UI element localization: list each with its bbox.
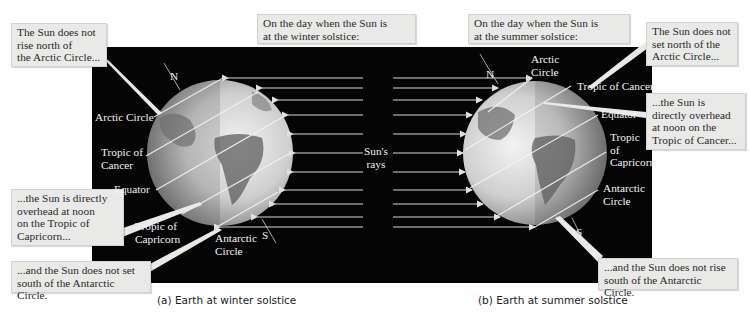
suns-rays-label: Sun's rays [360,145,392,170]
caption-summer-solstice: (b) Earth at summer solstice [478,294,628,306]
summer-tropic-cancer-label: Tropic of Cancer [577,80,654,93]
winter-arctic-circle-label: Arctic Circle [95,111,154,124]
caption-winter-solstice: (a) Earth at winter solstice [157,294,296,306]
summer-south-label: S [576,226,582,239]
summer-solstice-header-callout: On the day when the Sun is at the summer… [468,14,630,44]
winter-tropic-capricorn-label: Tropic of Capricorn [135,220,180,245]
summer-tropic-capricorn-label: Tropic of Capricorn [610,131,655,169]
summer-antarctic-circle-label: Antarctic Circle [603,182,645,207]
summer-cancer-callout: ...the Sun is directly overhead at noon … [646,93,746,150]
winter-antarctic-callout: ...and the Sun does not set south of the… [11,261,151,293]
winter-south-label: S [262,229,268,242]
summer-north-label: N [486,68,494,81]
winter-arctic-callout: The Sun does not rise north of the Arcti… [11,23,107,67]
summer-equator-label: Equator [601,108,637,121]
summer-arctic-callout: The Sun does not set north of the Arctic… [646,22,738,66]
winter-equator-label: Equator [114,183,150,196]
winter-antarctic-circle-label: Antarctic Circle [215,232,257,257]
summer-antarctic-callout: ...and the Sun does not rise south of th… [598,258,738,290]
winter-capricorn-callout: ...the Sun is directly overhead at noon … [11,189,124,246]
summer-arctic-circle-label: Arctic Circle [531,53,559,78]
winter-north-label: N [170,70,178,83]
winter-tropic-cancer-label: Tropic of Cancer [101,146,143,171]
winter-solstice-header-callout: On the day when the Sun is at the winter… [257,14,416,44]
